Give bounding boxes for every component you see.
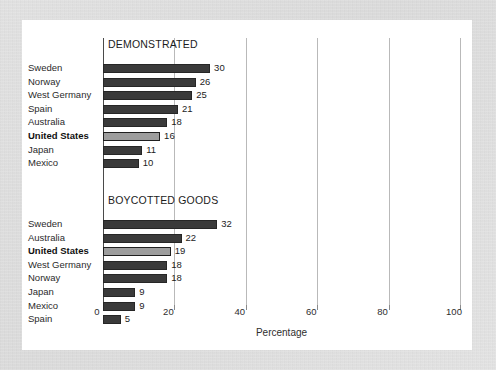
x-tick-label-60: 60	[306, 306, 317, 317]
bar-value-label: 21	[182, 103, 193, 114]
bar	[103, 118, 167, 127]
category-label: Japan	[28, 286, 54, 297]
bar	[103, 91, 192, 100]
gridline-40	[246, 38, 247, 305]
category-label: United States	[28, 245, 89, 256]
x-tick-label-0: 0	[94, 306, 99, 317]
bar	[103, 234, 182, 243]
panel-title-2: BOYCOTTED GOODS	[108, 194, 218, 206]
gridline-80	[389, 38, 390, 305]
bar-value-label: 11	[146, 144, 156, 155]
bar	[103, 315, 121, 324]
bar	[103, 288, 135, 297]
x-tick-40	[246, 305, 247, 310]
bar-value-label: 9	[139, 300, 144, 311]
x-axis-line	[103, 305, 461, 306]
gridline-100	[460, 38, 461, 305]
bar-value-label: 30	[214, 62, 225, 73]
bar-value-label: 5	[125, 313, 130, 324]
bar-value-label: 22	[186, 232, 197, 243]
category-label: United States	[28, 130, 89, 141]
bar-value-label: 26	[200, 76, 211, 87]
category-label: West Germany	[28, 259, 91, 270]
bar	[103, 132, 160, 141]
bar	[103, 261, 167, 270]
bar-value-label: 18	[171, 259, 182, 270]
bar	[103, 159, 139, 168]
category-label: Mexico	[28, 300, 58, 311]
chart-card: 020406080100PercentageDEMONSTRATEDSweden…	[22, 20, 472, 350]
bar-chart: 020406080100PercentageDEMONSTRATEDSweden…	[22, 20, 472, 350]
bar	[103, 78, 196, 87]
bar	[103, 220, 217, 229]
bar-value-label: 25	[196, 89, 207, 100]
category-label: Sweden	[28, 62, 62, 73]
bar-value-label: 32	[221, 218, 232, 229]
category-label: Mexico	[28, 157, 58, 168]
x-axis-title: Percentage	[256, 327, 307, 338]
bar-value-label: 9	[139, 286, 144, 297]
category-label: Sweden	[28, 218, 62, 229]
bar	[103, 247, 171, 256]
x-tick-80	[389, 305, 390, 310]
bar-value-label: 16	[164, 130, 175, 141]
bar	[103, 274, 167, 283]
bar-value-label: 10	[143, 157, 154, 168]
category-label: Japan	[28, 144, 54, 155]
category-label: Spain	[28, 103, 52, 114]
x-tick-label-20: 20	[163, 306, 174, 317]
x-tick-20	[174, 305, 175, 310]
category-label: Spain	[28, 313, 52, 324]
category-label: Australia	[28, 116, 65, 127]
bar	[103, 302, 135, 311]
bar-value-label: 18	[171, 272, 182, 283]
x-tick-label-40: 40	[235, 306, 246, 317]
bar-value-label: 18	[171, 116, 182, 127]
x-tick-60	[317, 305, 318, 310]
bar	[103, 105, 178, 114]
category-label: Australia	[28, 232, 65, 243]
bar	[103, 64, 210, 73]
panel-title-1: DEMONSTRATED	[108, 38, 198, 50]
category-label: West Germany	[28, 89, 91, 100]
bar-value-label: 19	[175, 245, 186, 256]
gridline-60	[317, 38, 318, 305]
x-tick-label-80: 80	[377, 306, 388, 317]
bar	[103, 146, 142, 155]
category-label: Norway	[28, 76, 60, 87]
category-label: Norway	[28, 272, 60, 283]
x-tick-label-100: 100	[446, 306, 462, 317]
